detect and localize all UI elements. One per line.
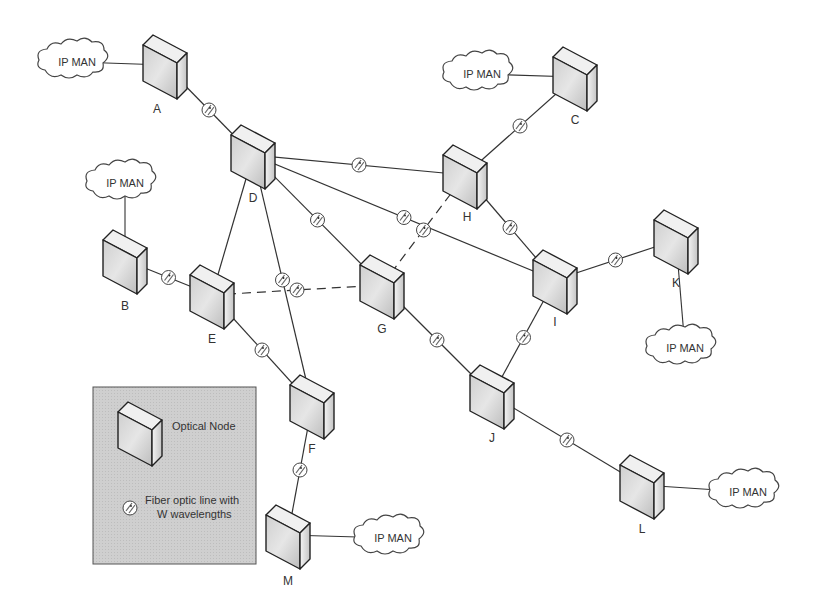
- link-E-G: [212, 283, 382, 297]
- optical-node-J: [470, 365, 514, 429]
- fiber-wavelength-icon: [255, 343, 269, 357]
- fiber-wavelength-icon: [517, 331, 531, 345]
- fiber-wavelength-icon: [397, 211, 411, 225]
- legend-fiber-icon: [123, 501, 137, 515]
- network-diagram: Optical Node Fiber optic line with W wav…: [0, 0, 816, 606]
- fiber-wavelength-icon: [513, 119, 527, 133]
- ip-man-cloud: IP MAN: [354, 514, 424, 554]
- optical-node-H: [443, 145, 487, 209]
- node-label-D: D: [249, 191, 258, 205]
- node-label-E: E: [208, 332, 216, 346]
- fiber-wavelength-icon: [123, 501, 137, 515]
- ip-man-cloud: IP MAN: [443, 50, 513, 90]
- node-label-M: M: [283, 574, 293, 588]
- node-label-I: I: [553, 315, 556, 329]
- node-label-K: K: [672, 276, 680, 290]
- cloud-label: IP MAN: [374, 532, 412, 544]
- link-D-I: [253, 155, 555, 280]
- node-label-J: J: [489, 431, 495, 445]
- legend-optical-node-label: Optical Node: [172, 420, 236, 432]
- node-label-F: F: [308, 442, 315, 456]
- cloud-label: IP MAN: [666, 342, 704, 354]
- fiber-wavelength-icon: [276, 273, 290, 287]
- fiber-wavelength-icon: [430, 333, 444, 347]
- ip-man-cloud: IP MAN: [38, 38, 108, 78]
- fiber-wavelength-icon: [293, 463, 307, 477]
- optical-node-K: [654, 210, 698, 274]
- fiber-wavelength-icon: [162, 271, 176, 285]
- legend-fiber-label-line1: Fiber optic line with: [145, 494, 239, 506]
- cloud-label: IP MAN: [729, 486, 767, 498]
- optical-node-F: [290, 375, 334, 439]
- cloud-label: IP MAN: [106, 177, 144, 189]
- fiber-wavelength-icon: [352, 158, 366, 172]
- optical-node-M: [266, 505, 310, 569]
- optical-node-D: [231, 125, 275, 189]
- legend-fiber-label-line2: W wavelengths: [157, 508, 232, 520]
- ip-man-cloud: IP MAN: [646, 324, 716, 364]
- fiber-wavelength-icon: [311, 213, 325, 227]
- link-D-H: [253, 155, 465, 175]
- node-label-A: A: [153, 102, 161, 116]
- optical-node-I: [533, 250, 577, 314]
- fiber-wavelength-icon: [202, 103, 216, 117]
- node-label-L: L: [639, 522, 646, 536]
- ip-man-cloud: IP MAN: [709, 468, 779, 508]
- legend-box: Optical Node Fiber optic line with W wav…: [93, 387, 256, 564]
- cloud-label: IP MAN: [463, 68, 501, 80]
- optical-node-G: [360, 255, 404, 319]
- fiber-wavelength-icon: [503, 221, 517, 235]
- fiber-wavelength-icon: [290, 283, 304, 297]
- optical-node-E: [190, 265, 234, 329]
- optical-node-A: [143, 35, 187, 99]
- optical-node-L: [620, 455, 664, 519]
- node-label-C: C: [571, 113, 580, 127]
- link-D-F: [253, 155, 312, 405]
- cloud-label: IP MAN: [58, 56, 96, 68]
- node-label-G: G: [377, 322, 386, 336]
- fiber-wavelength-icon: [560, 433, 574, 447]
- fiber-wavelength-icon: [417, 223, 431, 237]
- ip-man-cloud: IP MAN: [86, 159, 156, 199]
- node-label-B: B: [121, 299, 129, 313]
- optical-node-B: [103, 230, 147, 294]
- optical-node-C: [553, 47, 597, 111]
- fiber-wavelength-icon: [609, 253, 623, 267]
- node-label-H: H: [463, 210, 472, 224]
